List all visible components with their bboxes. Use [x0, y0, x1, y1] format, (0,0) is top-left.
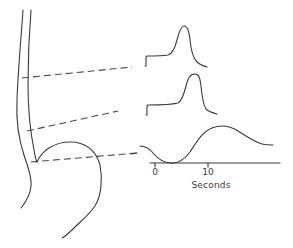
figure-canvas: 0 10 Seconds: [0, 0, 293, 248]
leader-line-bottom: [31, 153, 137, 162]
sphincter-trace: [140, 126, 273, 163]
leader-line-top: [22, 67, 132, 78]
leader-line-middle: [27, 111, 118, 131]
lower-esophagus-trace: [146, 74, 217, 115]
axis-title: Seconds: [191, 181, 230, 190]
upper-esophagus-trace: [145, 26, 207, 67]
tick-label-0: 0: [152, 168, 158, 177]
diagram-svg: [0, 0, 293, 248]
tick-label-10: 10: [202, 168, 213, 177]
esophagus-right-wall: [28, 10, 37, 162]
